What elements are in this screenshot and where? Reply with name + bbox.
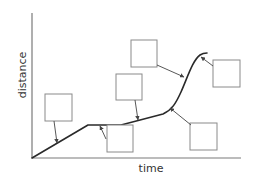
x-axis-label: time	[139, 162, 164, 175]
label-box-2[interactable]	[107, 125, 133, 152]
arrow-box-1	[54, 121, 57, 143]
arrow-box-3	[135, 100, 138, 120]
arrow-box-4	[157, 65, 184, 77]
arrow-box-6	[170, 108, 191, 125]
distance-time-diagram: distance time	[0, 0, 255, 184]
arrow-box-5	[201, 57, 213, 66]
y-axis-label: distance	[16, 51, 29, 98]
label-box-6[interactable]	[190, 123, 217, 150]
arrow-box-2	[100, 126, 106, 139]
label-box-1[interactable]	[45, 94, 72, 121]
label-box-3[interactable]	[116, 74, 142, 100]
label-box-4[interactable]	[131, 40, 157, 67]
label-box-5[interactable]	[213, 60, 240, 87]
